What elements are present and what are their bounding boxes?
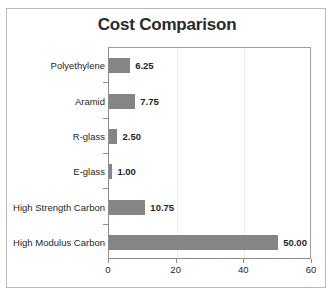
- bar-row[interactable]: 50.00: [109, 235, 310, 250]
- x-axis-tick: [243, 259, 244, 263]
- category-label: Aramid: [5, 97, 105, 107]
- y-axis-tick: [103, 153, 108, 154]
- chart-frame: Cost Comparison PolyethyleneAramidR-glas…: [6, 8, 326, 288]
- x-axis-tick: [176, 259, 177, 263]
- gridline: [244, 48, 245, 258]
- bar[interactable]: [109, 94, 135, 109]
- bar-value-label: 10.75: [150, 203, 174, 213]
- category-label: E-glass: [5, 167, 105, 177]
- bar-row[interactable]: 6.25: [109, 58, 310, 73]
- category-label: R-glass: [5, 132, 105, 142]
- bar-value-label: 1.00: [117, 167, 136, 177]
- x-axis-tick-label: 0: [93, 265, 123, 275]
- bar-row[interactable]: 10.75: [109, 200, 310, 215]
- y-axis-tick: [103, 82, 108, 83]
- bar-row[interactable]: 7.75: [109, 94, 310, 109]
- gridline: [177, 48, 178, 258]
- category-axis: PolyethyleneAramidR-glassE-glassHigh Str…: [7, 47, 105, 259]
- bar-value-label: 50.00: [283, 238, 307, 248]
- category-label: High Strength Carbon: [5, 203, 105, 213]
- bar[interactable]: [109, 235, 278, 250]
- bar[interactable]: [109, 58, 130, 73]
- plot-area: 6.257.752.501.0010.7550.00: [108, 47, 311, 259]
- bar-value-label: 7.75: [140, 97, 159, 107]
- y-axis-tick: [103, 224, 108, 225]
- x-axis-tick-label: 40: [228, 265, 258, 275]
- category-label: Polyethylene: [5, 61, 105, 71]
- category-label: High Modulus Carbon: [5, 238, 105, 248]
- x-axis-tick-label: 60: [296, 265, 326, 275]
- bar[interactable]: [109, 200, 145, 215]
- bar[interactable]: [109, 164, 112, 179]
- chart-title: Cost Comparison: [7, 15, 327, 35]
- x-axis-tick: [311, 259, 312, 263]
- y-axis-tick: [103, 118, 108, 119]
- bar[interactable]: [109, 129, 117, 144]
- bar-row[interactable]: 2.50: [109, 129, 310, 144]
- x-axis-tick: [108, 259, 109, 263]
- x-axis-tick-label: 20: [161, 265, 191, 275]
- bar-value-label: 2.50: [122, 132, 141, 142]
- bar-row[interactable]: 1.00: [109, 164, 310, 179]
- bar-value-label: 6.25: [135, 61, 154, 71]
- y-axis-tick: [103, 188, 108, 189]
